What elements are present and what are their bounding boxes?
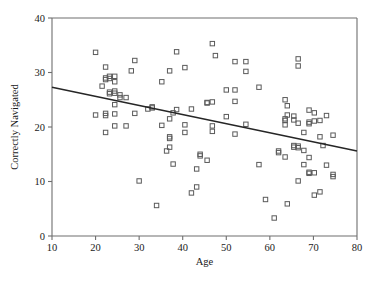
x-tick-label: 70 (308, 242, 319, 253)
scatter-point (160, 123, 164, 127)
regression-line (52, 87, 357, 151)
scatter-point (283, 123, 287, 127)
scatter-point (296, 179, 300, 183)
scatter-point (318, 135, 322, 139)
scatter-point (160, 80, 164, 84)
scatter-point (167, 135, 171, 139)
scatter-point (312, 193, 316, 197)
scatter-point (198, 152, 202, 156)
scatter-point (167, 136, 171, 140)
x-tick-label: 80 (352, 242, 363, 253)
scatter-point (103, 130, 107, 134)
scatter-point (118, 95, 122, 99)
scatter-point (118, 93, 122, 97)
scatter-point (312, 171, 316, 175)
scatter-point (213, 53, 217, 57)
y-axis-ticks (48, 18, 52, 236)
scatter-point (198, 154, 202, 158)
scatter-point (285, 104, 289, 108)
scatter-point (189, 191, 193, 195)
y-axis-title: Correctly Navigated (9, 84, 20, 170)
y-tick-label: 10 (35, 176, 46, 187)
scatter-point (103, 65, 107, 69)
scatter-point (124, 124, 128, 128)
y-tick-label: 0 (40, 231, 45, 242)
scatter-point (292, 143, 296, 147)
scatter-point (276, 149, 280, 153)
scatter-point (113, 80, 117, 84)
x-tick-label: 30 (134, 242, 145, 253)
scatter-point (210, 41, 214, 45)
scatter-point (244, 69, 248, 73)
scatter-point (107, 92, 111, 96)
y-axis-tick-labels: 010203040 (35, 13, 46, 242)
scatter-point (307, 155, 311, 159)
scatter-point (113, 112, 117, 116)
scatter-point (124, 95, 128, 99)
scatter-point (183, 130, 187, 134)
x-axis-tick-labels: 1020304050607080 (47, 242, 363, 253)
scatter-point (302, 130, 306, 134)
scatter-point (107, 90, 111, 94)
scatter-point (307, 122, 311, 126)
scatter-point (312, 119, 316, 123)
scatter-point (302, 162, 306, 166)
x-tick-label: 10 (47, 242, 58, 253)
scatter-point (331, 133, 335, 137)
scatter-point (307, 120, 311, 124)
scatter-point (171, 162, 175, 166)
scatter-point (292, 145, 296, 149)
scatter-point (194, 185, 198, 189)
scatter-point (167, 117, 171, 121)
scatter-point (272, 216, 276, 220)
scatter-point (137, 179, 141, 183)
scatter-point (285, 202, 289, 206)
scatter-point (296, 57, 300, 61)
scatter-point-group (93, 41, 335, 220)
scatter-point (244, 59, 248, 63)
scatter-point (312, 111, 316, 115)
scatter-point (318, 118, 322, 122)
scatter-point (324, 113, 328, 117)
scatter-point (154, 203, 158, 207)
x-tick-label: 50 (221, 242, 232, 253)
x-axis-ticks (52, 236, 357, 240)
scatter-point (224, 88, 228, 92)
scatter-point (296, 121, 300, 125)
scatter-point (133, 111, 137, 115)
scatter-point (296, 146, 300, 150)
scatter-point (183, 123, 187, 127)
scatter-point (257, 85, 261, 89)
scatter-point (113, 102, 117, 106)
scatter-point (324, 163, 328, 167)
scatter-point (283, 98, 287, 102)
scatter-point (167, 69, 171, 73)
x-axis-title: Age (196, 256, 214, 267)
scatter-point (233, 99, 237, 103)
scatter-point (296, 144, 300, 148)
scatter-point (113, 74, 117, 78)
x-tick-label: 20 (90, 242, 101, 253)
scatter-point (318, 190, 322, 194)
scatter-point (113, 124, 117, 128)
scatter-point (100, 84, 104, 88)
scatter-point (210, 100, 214, 104)
y-tick-label: 30 (35, 67, 46, 78)
scatter-point (205, 158, 209, 162)
scatter-point (210, 129, 214, 133)
scatter-point (263, 197, 267, 201)
x-tick-label: 40 (177, 242, 188, 253)
x-tick-label: 60 (265, 242, 276, 253)
y-tick-label: 40 (35, 13, 46, 24)
scatter-point (244, 122, 248, 126)
y-tick-label: 20 (35, 122, 46, 133)
scatter-point (93, 113, 97, 117)
scatter-point (233, 88, 237, 92)
scatter-point (296, 64, 300, 68)
scatter-point (307, 108, 311, 112)
scatter-point (302, 148, 306, 152)
scatter-point (129, 69, 133, 73)
scatter-point (194, 167, 198, 171)
scatter-point (183, 65, 187, 69)
scatter-point (257, 162, 261, 166)
